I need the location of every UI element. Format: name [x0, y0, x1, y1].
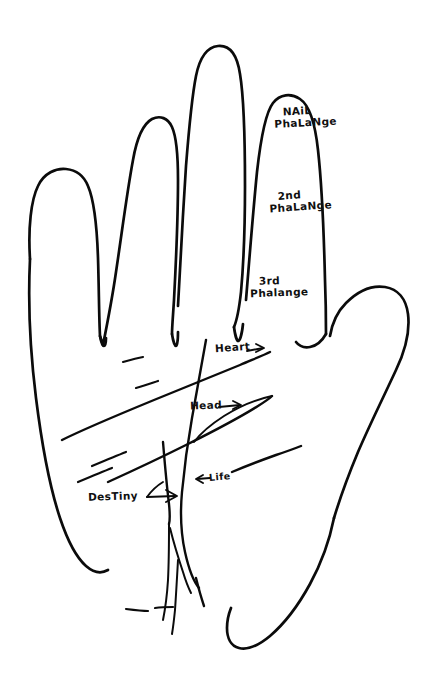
crease-dash-4-path	[92, 452, 126, 466]
destiny-arrow-shaft-path	[147, 496, 175, 497]
label-life-line: Life	[209, 470, 231, 483]
crease-dash-3-path	[78, 468, 112, 482]
palm-diagram-canvas: NAiL PhaLaNge 2nd PhaLaNge 3rd Phalange …	[0, 0, 441, 696]
label-third-phalange: 3rd Phalange	[259, 273, 309, 299]
life-line-upper-arc-path	[232, 446, 301, 472]
middle-finger-path	[178, 46, 245, 327]
label-second-phalange: 2nd PhaLaNge	[277, 186, 332, 214]
heart-line-path	[62, 352, 270, 440]
life-line-lower-path	[196, 578, 204, 606]
wrist-dash-2-path	[155, 607, 173, 608]
label-heart-line: Heart	[215, 340, 251, 355]
label-head-line: Head	[190, 398, 223, 411]
palm-left-edge-path	[29, 259, 108, 572]
destiny-arrow-tail-path	[147, 482, 163, 497]
crease-dash-1-path	[123, 357, 143, 362]
fork-stroke-1-path	[163, 524, 169, 620]
life-line-path	[181, 340, 206, 588]
palm-right-edge-path	[227, 518, 334, 649]
label-nail-phalange: NAiL PhaLaNge	[282, 103, 337, 131]
hand-outline-path	[29, 117, 178, 345]
wrist-dash-1-path	[126, 609, 148, 611]
annotation-arrows-group	[147, 344, 264, 502]
web-valley-mid-path	[172, 332, 178, 346]
label-destiny-line: DesTiny	[88, 489, 138, 503]
palm-lines-group	[62, 340, 301, 634]
fork-stroke-3-path	[172, 560, 178, 634]
web-thumb-path	[296, 334, 326, 347]
label-third-phalange-line2: Phalange	[250, 286, 309, 300]
crease-dash-2-path	[136, 381, 158, 388]
thumb-path	[330, 287, 409, 518]
